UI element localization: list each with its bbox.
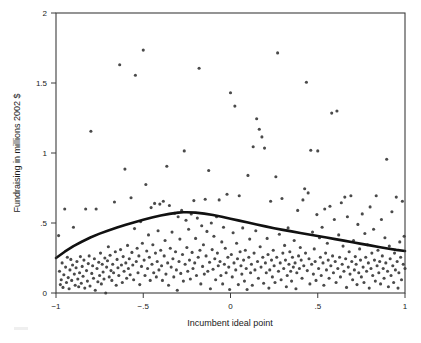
data-point bbox=[129, 196, 132, 199]
data-point bbox=[382, 267, 385, 270]
data-point bbox=[212, 268, 215, 271]
data-point bbox=[75, 266, 78, 269]
data-point bbox=[328, 277, 331, 280]
data-point bbox=[383, 236, 386, 239]
data-point bbox=[138, 283, 141, 286]
data-point bbox=[218, 260, 221, 263]
data-point bbox=[201, 265, 204, 268]
data-point bbox=[355, 263, 358, 266]
data-point bbox=[158, 203, 161, 206]
data-point bbox=[332, 271, 335, 274]
data-point bbox=[315, 213, 318, 216]
data-point bbox=[75, 260, 78, 263]
data-point bbox=[64, 266, 67, 269]
data-point bbox=[239, 264, 242, 267]
data-point bbox=[336, 267, 339, 270]
data-point bbox=[150, 263, 153, 266]
data-point bbox=[339, 275, 342, 278]
data-point bbox=[183, 149, 186, 152]
data-point bbox=[376, 264, 379, 267]
data-point bbox=[284, 259, 287, 262]
data-point bbox=[80, 282, 83, 285]
data-point bbox=[76, 277, 79, 280]
data-point bbox=[171, 257, 174, 260]
data-point bbox=[233, 105, 236, 108]
data-point bbox=[210, 221, 213, 224]
data-point bbox=[322, 284, 325, 287]
data-point bbox=[192, 199, 195, 202]
data-point bbox=[401, 200, 404, 203]
data-point bbox=[123, 270, 126, 273]
data-point bbox=[274, 175, 277, 178]
data-point bbox=[213, 257, 216, 260]
data-point bbox=[246, 174, 249, 177]
data-point bbox=[127, 267, 130, 270]
data-point bbox=[125, 277, 128, 280]
data-point bbox=[263, 147, 266, 150]
data-point bbox=[290, 280, 293, 283]
data-point bbox=[354, 255, 357, 258]
data-point bbox=[143, 274, 146, 277]
data-point bbox=[205, 254, 208, 257]
data-point bbox=[118, 63, 121, 66]
data-point bbox=[235, 242, 238, 245]
data-point bbox=[288, 250, 291, 253]
data-point bbox=[314, 279, 317, 282]
data-point bbox=[151, 243, 154, 246]
data-point bbox=[103, 256, 106, 259]
data-point bbox=[216, 252, 219, 255]
data-point bbox=[94, 289, 97, 292]
data-point bbox=[199, 282, 202, 285]
data-point bbox=[279, 261, 282, 264]
data-point bbox=[162, 200, 165, 203]
data-point bbox=[150, 206, 153, 209]
data-point bbox=[82, 259, 85, 262]
data-point bbox=[392, 281, 395, 284]
data-point bbox=[348, 273, 351, 276]
data-point bbox=[333, 218, 336, 221]
data-point bbox=[119, 248, 122, 251]
data-point bbox=[370, 252, 373, 255]
data-point bbox=[109, 269, 112, 272]
data-point bbox=[102, 277, 105, 280]
data-point bbox=[304, 252, 307, 255]
data-point bbox=[289, 270, 292, 273]
data-point bbox=[89, 130, 92, 133]
data-point bbox=[65, 281, 68, 284]
data-point bbox=[223, 263, 226, 266]
data-point bbox=[117, 274, 120, 277]
data-point bbox=[100, 282, 103, 285]
data-point bbox=[91, 264, 94, 267]
data-point bbox=[157, 268, 160, 271]
data-point bbox=[355, 283, 358, 286]
data-point bbox=[268, 268, 271, 271]
data-point bbox=[191, 251, 194, 254]
y-axis-title: Fundraising in millions 2002 $ bbox=[12, 93, 22, 212]
data-point bbox=[232, 261, 235, 264]
data-point bbox=[272, 249, 275, 252]
data-point bbox=[319, 256, 322, 259]
data-point bbox=[356, 223, 359, 226]
data-point bbox=[250, 263, 253, 266]
data-point bbox=[359, 259, 362, 262]
data-point bbox=[83, 287, 86, 290]
data-point bbox=[106, 259, 109, 262]
data-point bbox=[226, 256, 229, 259]
data-point bbox=[252, 145, 255, 148]
data-point bbox=[60, 278, 63, 281]
data-point bbox=[101, 263, 104, 266]
plot-background bbox=[56, 13, 405, 293]
data-point bbox=[209, 287, 212, 290]
data-point bbox=[244, 249, 247, 252]
data-point bbox=[186, 270, 189, 273]
data-point bbox=[346, 215, 349, 218]
data-point bbox=[71, 263, 74, 266]
data-point bbox=[389, 257, 392, 260]
data-point bbox=[362, 266, 365, 269]
y-tick-label: 1.5 bbox=[36, 79, 48, 88]
data-point bbox=[69, 258, 72, 261]
data-point bbox=[155, 275, 158, 278]
data-point bbox=[128, 257, 131, 260]
data-point bbox=[77, 285, 80, 288]
data-point bbox=[92, 277, 95, 280]
